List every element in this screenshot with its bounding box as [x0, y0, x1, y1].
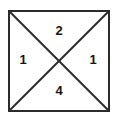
square-diagonals-figure: 2 1 1 4: [0, 0, 117, 120]
region-label-left: 1: [15, 53, 31, 66]
region-label-right: 1: [85, 53, 101, 66]
region-label-top: 2: [51, 24, 67, 37]
region-label-bottom: 4: [51, 84, 67, 97]
